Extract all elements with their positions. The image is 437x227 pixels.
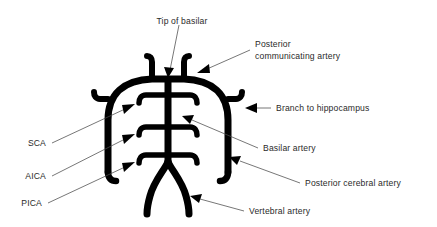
superior-cerebellar-artery-right	[168, 95, 197, 103]
leader-tip-of-basilar	[170, 25, 179, 70]
vessel-anatomy	[94, 56, 242, 214]
hippocampal-branch	[228, 92, 242, 99]
posterior-inferior-cerebellar-artery-right	[168, 155, 197, 163]
posterior-communicating-artery-left	[147, 56, 152, 79]
leader-vertebral-artery	[200, 199, 244, 211]
label-tip-of-basilar: Tip of basilar	[157, 16, 208, 26]
leader-posterior-communicating-artery	[207, 50, 250, 69]
arrowhead-basilar-artery	[182, 115, 194, 124]
arrowhead-sca	[122, 104, 135, 114]
superior-cerebellar-artery-left	[139, 95, 168, 103]
vertebral-artery-left	[147, 162, 168, 214]
leader-sca	[52, 109, 125, 143]
leader-aica	[52, 139, 125, 176]
anterior-inferior-cerebellar-artery-right	[168, 127, 197, 135]
posterior-communicating-artery-right	[184, 56, 189, 79]
arrowhead-posterior-communicating-artery	[197, 64, 210, 73]
label-pica: PICA	[21, 198, 42, 208]
arrowhead-vertebral-artery	[190, 194, 202, 203]
label-basilar-artery: Basilar artery	[263, 143, 316, 153]
arrowhead-pica	[122, 162, 135, 172]
label-posterior-communicating-artery-line1: Posterior	[255, 39, 291, 49]
label-branch-to-hippocampus: Branch to hippocampus	[276, 103, 369, 113]
anterior-inferior-cerebellar-artery-left	[139, 127, 168, 135]
label-aica: AICA	[25, 171, 46, 181]
label-vertebral-artery: Vertebral artery	[249, 206, 311, 216]
arrowhead-branch-to-hippocampus	[245, 103, 257, 113]
label-sca: SCA	[28, 138, 46, 148]
label-posterior-communicating-artery-line2: communicating artery	[255, 51, 341, 61]
leader-posterior-cerebral-artery	[240, 161, 300, 183]
annotation-labels: Tip of basilar Posterior communicating a…	[21, 16, 401, 216]
cerebral-circulation-diagram: Tip of basilar Posterior communicating a…	[0, 0, 437, 227]
vertebral-artery-right	[168, 162, 189, 214]
label-posterior-cerebral-artery: Posterior cerebral artery	[305, 178, 401, 188]
pca-left-lateral-stub	[94, 92, 108, 99]
posterior-inferior-cerebellar-artery-left	[139, 155, 168, 163]
pca-right-terminal	[220, 172, 228, 181]
arrowhead-aica	[122, 134, 135, 144]
